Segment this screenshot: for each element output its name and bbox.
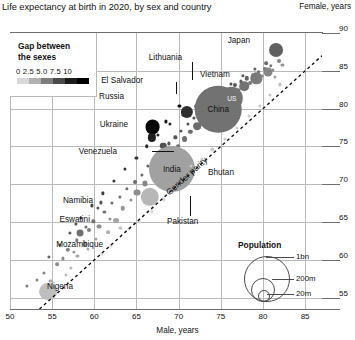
country-label-bhutan: Bhutan xyxy=(208,168,234,177)
x-tick-55: 55 xyxy=(40,312,64,321)
gridline-h-65 xyxy=(10,222,322,223)
bubble-country-7 xyxy=(69,267,72,270)
leader-line-pakistan xyxy=(190,196,191,216)
population-leader-20m xyxy=(267,294,294,295)
gap-legend: Gap between the sexes 0 2.5 5.0 7.5 10 xyxy=(10,33,97,97)
leader-line-el-salvador xyxy=(176,82,177,94)
bubble-country-105 xyxy=(247,115,250,118)
bubble-country-83 xyxy=(112,180,115,183)
y-axis-label: Female, years xyxy=(299,2,351,11)
gap-ramp-seg-0 xyxy=(17,78,29,84)
bubble-pakistan[interactable] xyxy=(141,188,159,206)
bubble-country-37 xyxy=(182,136,188,142)
country-label-pakistan: Pakistan xyxy=(167,217,198,226)
country-label-china: China xyxy=(208,105,229,114)
x-tick-80: 80 xyxy=(251,312,275,321)
country-label-us: US xyxy=(227,95,236,102)
country-label-nigeria: Nigeria xyxy=(47,282,73,291)
bubble-country-79 xyxy=(156,133,159,136)
bubble-country-113 xyxy=(84,225,87,228)
country-label-venezuela: Venezuela xyxy=(79,147,117,156)
leader-line-venezuela xyxy=(152,151,174,152)
x-tick-65: 65 xyxy=(124,312,148,321)
bubble-country-13 xyxy=(97,224,102,229)
gridline-v-65 xyxy=(136,33,137,309)
bubble-country-82 xyxy=(123,168,126,171)
bubble-country-104 xyxy=(235,126,238,129)
bubble-country-107 xyxy=(268,93,271,96)
bubble-country-103 xyxy=(223,137,226,140)
bubble-vietnam[interactable] xyxy=(181,106,193,118)
bubble-country-110 xyxy=(96,206,99,209)
bubble-country-1 xyxy=(35,278,38,281)
bubble-ukraine[interactable] xyxy=(148,133,156,141)
gap-ramp-seg-2 xyxy=(41,78,53,84)
gap-legend-color-ramp xyxy=(17,78,89,84)
gap-legend-title: Gap between the sexes xyxy=(18,41,70,63)
country-label-ukraine: Ukraine xyxy=(100,120,128,129)
bubble-country-95 xyxy=(127,227,130,230)
bubble-country-38 xyxy=(186,122,189,125)
bubble-country-34 xyxy=(174,136,177,139)
x-tick-85: 85 xyxy=(293,312,317,321)
bubble-country-98 xyxy=(162,198,165,201)
country-label-eswatini: Eswatini xyxy=(60,215,91,224)
bubble-country-20 xyxy=(126,187,129,190)
bubble-country-73 xyxy=(229,82,232,85)
y-tick-80: 80 xyxy=(326,100,348,109)
population-leader-200m xyxy=(272,279,294,280)
bubble-country-2 xyxy=(42,271,45,274)
country-label-namibia: Namibia xyxy=(63,196,93,205)
bubble-lithuania[interactable] xyxy=(178,104,181,107)
x-axis-label: Male, years xyxy=(0,326,355,335)
population-label-20m: 20m xyxy=(296,289,311,298)
bubble-country-0 xyxy=(25,284,28,287)
population-legend: Population 1bn 200m 20m xyxy=(236,240,336,306)
bubble-country-112 xyxy=(119,226,122,229)
bubble-country-24 xyxy=(140,174,143,177)
bubble-country-16 xyxy=(110,202,113,205)
y-tick-70: 70 xyxy=(326,175,348,184)
bubble-country-91 xyxy=(76,254,79,257)
gap-ramp-seg-1 xyxy=(29,78,41,84)
bubble-country-69 xyxy=(281,63,284,66)
x-tick-70: 70 xyxy=(167,312,191,321)
bubble-country-109 xyxy=(273,75,276,78)
bubble-country-97 xyxy=(150,210,153,213)
country-label-india: India xyxy=(163,165,181,174)
gap-legend-tick-labels: 0 2.5 5.0 7.5 10 xyxy=(16,67,72,76)
population-leader-1bn xyxy=(266,257,294,258)
y-tick-90: 90 xyxy=(326,24,348,33)
gap-ramp-seg-4 xyxy=(65,78,77,84)
gap-ramp-seg-5 xyxy=(77,78,89,84)
bubble-country-39 xyxy=(188,130,192,134)
axis-bottom-rule xyxy=(10,309,340,310)
bubble-country-18 xyxy=(118,195,121,198)
bubble-namibia[interactable] xyxy=(99,201,102,204)
bubble-country-70 xyxy=(264,61,268,65)
x-tick-60: 60 xyxy=(82,312,106,321)
y-tick-rule-80 xyxy=(322,109,340,110)
country-label-japan: Japan xyxy=(228,36,250,45)
bubble-mozambique[interactable] xyxy=(77,229,84,236)
bubble-country-108 xyxy=(278,83,281,86)
population-legend-title: Population xyxy=(238,240,281,250)
gap-legend-title-line1: Gap between xyxy=(18,41,70,51)
bubble-country-19 xyxy=(121,206,125,210)
bubble-japan[interactable] xyxy=(270,43,284,57)
gap-legend-title-line2: the sexes xyxy=(18,52,56,62)
bubble-el-salvador[interactable] xyxy=(164,120,167,123)
x-tick-75: 75 xyxy=(209,312,233,321)
bubble-country-93 xyxy=(100,252,103,255)
bubble-country-58 xyxy=(245,76,249,80)
leader-line-lithuania xyxy=(192,62,193,80)
bubble-country-66 xyxy=(269,64,273,68)
country-label-vietnam: Vietnam xyxy=(200,70,230,79)
bubble-country-68 xyxy=(277,59,281,63)
bubble-country-102 xyxy=(211,148,214,151)
bubble-country-14 xyxy=(103,211,106,214)
bubble-country-32 xyxy=(167,142,170,145)
y-tick-rule-85 xyxy=(322,71,340,72)
bubble-russia[interactable] xyxy=(145,119,160,134)
gridline-h-80 xyxy=(10,109,322,110)
